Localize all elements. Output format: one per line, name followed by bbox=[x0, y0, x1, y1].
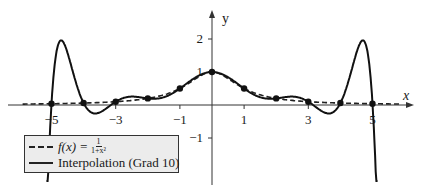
legend-item-function: f(x) = 1 1+x² bbox=[29, 138, 106, 155]
legend: f(x) = 1 1+x² Interpolation (Grad 10) bbox=[24, 135, 179, 173]
dashed-line-swatch-icon bbox=[29, 146, 53, 148]
legend-function-label: f(x) = bbox=[58, 139, 88, 155]
x-axis-label: x bbox=[402, 88, 410, 103]
svg-text:3: 3 bbox=[305, 112, 312, 127]
fraction-denominator: 1+x² bbox=[91, 147, 106, 155]
solid-line-swatch-icon bbox=[29, 162, 53, 164]
svg-text:−1: −1 bbox=[173, 112, 187, 127]
y-axis-label: y bbox=[222, 11, 229, 26]
legend-item-interpolation: Interpolation (Grad 10) bbox=[29, 155, 179, 171]
svg-text:2: 2 bbox=[197, 31, 204, 46]
svg-text:1: 1 bbox=[241, 112, 248, 127]
legend-interpolation-label: Interpolation (Grad 10) bbox=[58, 155, 179, 171]
svg-text:−1: −1 bbox=[189, 130, 203, 145]
tick-labels: −5−3−1135−112 bbox=[45, 31, 376, 145]
legend-fraction: 1 1+x² bbox=[91, 138, 106, 155]
svg-text:−3: −3 bbox=[109, 112, 123, 127]
